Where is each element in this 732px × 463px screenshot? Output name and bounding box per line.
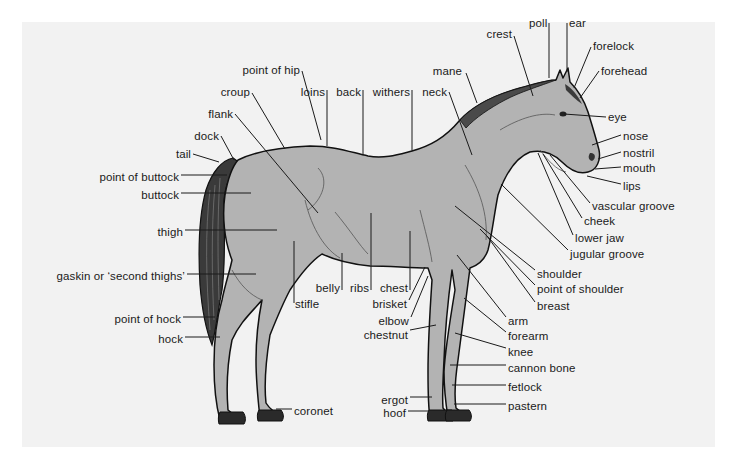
leader-brisket (409, 267, 425, 300)
leader-nostril (598, 152, 621, 159)
label-mouth: mouth (623, 162, 655, 175)
leader-flank (235, 114, 318, 213)
label-flank: flank (208, 108, 233, 121)
label-croup: croup (221, 86, 250, 99)
label-breast: breast (537, 300, 570, 313)
label-nostril: nostril (623, 147, 654, 160)
leader-breast (487, 236, 535, 302)
label-forearm: forearm (508, 330, 548, 343)
label-dock: dock (194, 130, 219, 143)
label-vascular-groove: vascular groove (592, 200, 675, 213)
label-shoulder: shoulder (537, 268, 582, 281)
label-hock: hock (158, 333, 183, 346)
label-mane: mane (433, 65, 462, 78)
label-buttock: buttock (141, 189, 179, 202)
leader-dock (221, 136, 234, 160)
label-cannon-bone: cannon bone (508, 362, 576, 375)
leader-elbow (411, 276, 428, 317)
leader-crest (514, 36, 533, 96)
label-gaskin: gaskin or ‘second thighs’ (57, 270, 185, 283)
label-tail: tail (176, 148, 191, 161)
leader-mouth (595, 167, 621, 169)
label-fetlock: fetlock (508, 381, 542, 394)
leader-point-of-hip (302, 71, 321, 140)
leader-neck (449, 92, 472, 155)
label-hoof: hoof (383, 407, 406, 420)
label-lower-jaw: lower jaw (575, 232, 624, 245)
label-ear: ear (569, 17, 586, 30)
label-stifle: stifle (295, 298, 319, 311)
label-chestnut: chestnut (364, 329, 408, 342)
leader-arm (457, 255, 506, 317)
label-point-of-hock: point of hock (114, 313, 181, 326)
label-pastern: pastern (508, 400, 547, 413)
leader-nose (592, 135, 621, 145)
label-elbow: elbow (378, 315, 409, 328)
label-forehead: forehead (601, 65, 647, 78)
leader-forearm (464, 298, 506, 332)
label-coronet: coronet (294, 405, 333, 418)
label-arm: arm (508, 315, 528, 328)
label-point-of-hip: point of hip (243, 64, 300, 77)
label-ergot: ergot (381, 394, 408, 407)
leader-chestnut (410, 325, 436, 330)
label-withers: withers (373, 86, 410, 99)
label-point-of-shoulder: point of shoulder (537, 283, 624, 296)
label-nose: nose (623, 130, 648, 143)
label-forelock: forelock (593, 40, 634, 53)
label-brisket: brisket (372, 298, 407, 311)
label-jugular-groove: jugular groove (570, 248, 644, 261)
label-knee: knee (508, 346, 533, 359)
label-lips: lips (623, 180, 641, 193)
leader-lips (587, 176, 621, 184)
label-loins: loins (301, 86, 325, 99)
label-ribs: ribs (350, 282, 369, 295)
label-thigh: thigh (158, 226, 183, 239)
label-cheek: cheek (584, 215, 615, 228)
leader-tail (193, 154, 219, 162)
leader-forehead (580, 71, 599, 98)
label-back: back (336, 86, 361, 99)
label-point-of-buttock: point of buttock (99, 171, 179, 184)
leader-eye (564, 114, 606, 117)
label-chest: chest (380, 282, 408, 295)
label-belly: belly (316, 282, 340, 295)
label-crest: crest (487, 28, 512, 41)
leader-jugular-groove (501, 184, 568, 250)
leader-knee (455, 333, 506, 348)
leader-shoulder (455, 206, 535, 270)
label-poll: poll (529, 17, 547, 30)
leader-forelock (574, 47, 591, 88)
label-neck: neck (422, 86, 447, 99)
label-eye: eye (608, 111, 627, 124)
leader-mane (466, 73, 477, 103)
